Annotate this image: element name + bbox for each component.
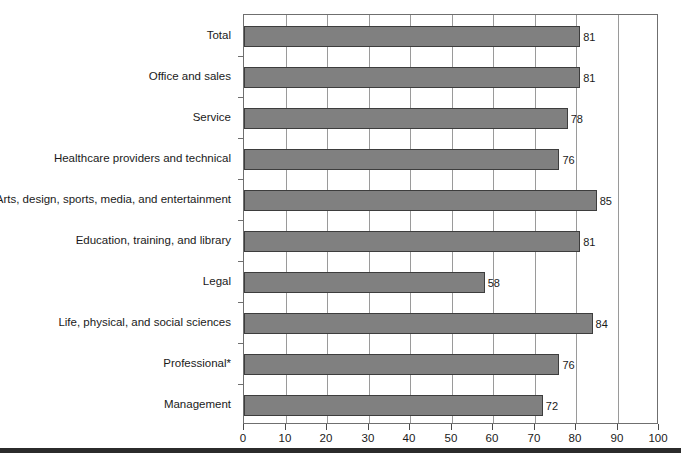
x-tick-label-60: 60: [486, 431, 499, 445]
bar-value-label: 81: [580, 31, 595, 42]
x-tick-60: [492, 424, 493, 430]
bar-row: 85: [244, 190, 657, 211]
x-tick-label-20: 20: [320, 431, 333, 445]
bar-row: 81: [244, 231, 657, 252]
x-tick-label-100: 100: [648, 431, 667, 445]
category-label: Service: [193, 107, 237, 128]
bar-row: 84: [244, 313, 657, 334]
x-tick-label-10: 10: [279, 431, 292, 445]
category-label: Life, physical, and social sciences: [58, 312, 237, 333]
category-tick: [238, 261, 244, 262]
category-label: Total: [207, 25, 237, 46]
category-tick: [238, 179, 244, 180]
x-tick-label-50: 50: [445, 431, 458, 445]
bar-value-label: 81: [580, 72, 595, 83]
x-axis-tick-labels: 0102030405060708090100: [243, 431, 658, 445]
category-label: Healthcare providers and technical: [54, 148, 237, 169]
category-tick: [238, 302, 244, 303]
bar-row: 81: [244, 26, 657, 47]
bar[interactable]: [244, 231, 580, 252]
x-tick-label-0: 0: [240, 431, 246, 445]
plot-area: 81817876858158847672: [243, 14, 658, 424]
bottom-rule: [0, 448, 681, 453]
bar-value-label: 76: [559, 359, 574, 370]
x-tick-50: [451, 424, 452, 430]
x-tick-40: [409, 424, 410, 430]
x-tick-100: [658, 424, 659, 430]
category-label: Legal: [203, 271, 237, 292]
x-tick-label-80: 80: [569, 431, 582, 445]
x-tick-70: [534, 424, 535, 430]
bar-row: 76: [244, 354, 657, 375]
chart-page: TotalOffice and salesServiceHealthcare p…: [0, 0, 681, 460]
bar-row: 81: [244, 67, 657, 88]
x-tick-30: [368, 424, 369, 430]
bar[interactable]: [244, 313, 593, 334]
x-tick-label-40: 40: [403, 431, 416, 445]
bar[interactable]: [244, 354, 559, 375]
bar-row: 76: [244, 149, 657, 170]
bar-value-label: 58: [485, 277, 500, 288]
category-axis-labels: TotalOffice and salesServiceHealthcare p…: [0, 14, 237, 424]
bar-series: 81817876858158847672: [244, 15, 657, 423]
category-tick: [238, 220, 244, 221]
bar-row: 58: [244, 272, 657, 293]
bar-value-label: 72: [543, 400, 558, 411]
bar-value-label: 78: [568, 113, 583, 124]
bar[interactable]: [244, 272, 485, 293]
bar-row: 72: [244, 395, 657, 416]
bar-value-label: 84: [593, 318, 608, 329]
x-tick-80: [575, 424, 576, 430]
bar-value-label: 81: [580, 236, 595, 247]
category-label: Management: [164, 394, 237, 415]
bar[interactable]: [244, 67, 580, 88]
category-tick: [238, 384, 244, 385]
bar[interactable]: [244, 26, 580, 47]
bar-value-label: 85: [597, 195, 612, 206]
bar[interactable]: [244, 190, 597, 211]
category-tick: [238, 343, 244, 344]
x-tick-90: [617, 424, 618, 430]
category-label: Office and sales: [149, 66, 237, 87]
category-label: Arts, design, sports, media, and enterta…: [0, 189, 237, 210]
category-tick: [238, 56, 244, 57]
x-axis-ticks: [243, 424, 658, 430]
category-label: Education, training, and library: [76, 230, 237, 251]
x-tick-label-70: 70: [528, 431, 541, 445]
bar[interactable]: [244, 395, 543, 416]
bar[interactable]: [244, 149, 559, 170]
x-tick-20: [326, 424, 327, 430]
bar-value-label: 76: [559, 154, 574, 165]
x-tick-label-30: 30: [362, 431, 375, 445]
bar[interactable]: [244, 108, 568, 129]
x-tick-10: [285, 424, 286, 430]
category-tick: [238, 138, 244, 139]
x-tick-label-90: 90: [611, 431, 624, 445]
bar-row: 78: [244, 108, 657, 129]
x-tick-0: [243, 424, 244, 430]
category-label: Professional*: [163, 353, 237, 374]
category-tick: [238, 97, 244, 98]
